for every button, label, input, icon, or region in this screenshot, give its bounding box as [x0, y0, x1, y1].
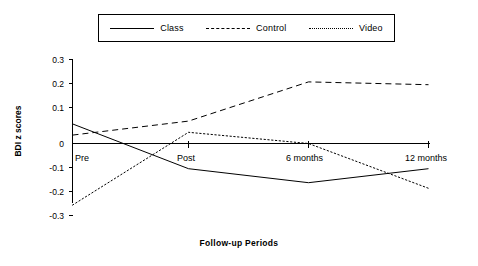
y-tick-label: 0	[59, 139, 64, 149]
x-axis-title: Follow-up Periods	[0, 238, 478, 248]
x-tick-label-post: Post	[177, 153, 196, 163]
chart-figure: Class Control Video BDI z scores 0.3 0.2…	[0, 0, 478, 266]
y-tick-label: 0.3	[52, 55, 64, 65]
y-axis-title: BDI z scores	[13, 105, 23, 156]
y-tick-group: 0.3 0.2 0.1 0 -0.1 -0.2 -0.3	[49, 55, 72, 221]
x-tick-label-12-months: 12 months	[405, 153, 448, 163]
y-tick-label: -0.3	[49, 211, 64, 221]
series-line-control	[73, 82, 429, 135]
y-tick-label: -0.1	[49, 163, 64, 173]
series-line-class	[73, 124, 429, 183]
chart-plot-area: BDI z scores 0.3 0.2 0.1 0 -0.1 -0.2 -0.…	[0, 0, 478, 266]
y-tick-label: 0.1	[52, 103, 64, 113]
x-tick-label-6-months: 6 months	[286, 153, 324, 163]
y-tick-label: -0.2	[49, 187, 64, 197]
y-tick-label: 0.2	[52, 79, 64, 89]
x-tick-label-pre: Pre	[75, 153, 89, 163]
